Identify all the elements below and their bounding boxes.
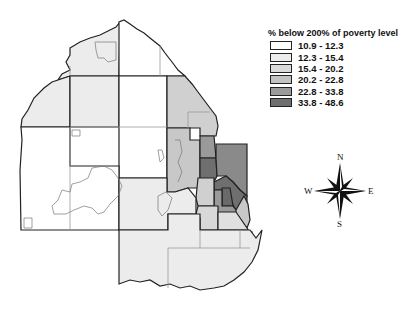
region-west-mid [21, 76, 70, 127]
region-west-lower [20, 127, 119, 230]
region-east-strip [167, 128, 200, 192]
legend-label: 33.8 - 48.6 [298, 97, 343, 108]
compass-north-label: N [337, 152, 344, 162]
legend-label: 15.4 - 20.2 [298, 63, 343, 74]
legend-swatch [270, 41, 292, 50]
region-north-center [119, 20, 185, 76]
legend-item: 20.2 - 22.8 [268, 74, 398, 85]
compass-south-label: S [337, 219, 342, 229]
region-south-city-a [196, 178, 214, 206]
choropleth-map [0, 0, 280, 309]
legend-item: 10.9 - 12.3 [268, 40, 398, 51]
legend: % below 200% of poverty level 10.9 - 12.… [268, 28, 398, 108]
legend-label: 10.9 - 12.3 [298, 40, 343, 51]
legend-title: % below 200% of poverty level [268, 28, 398, 38]
legend-label: 12.3 - 15.4 [298, 52, 343, 63]
region-northwest [58, 22, 120, 80]
region-city-north [200, 136, 216, 158]
legend-swatch [270, 64, 292, 73]
legend-swatch [270, 75, 292, 84]
legend-item: 33.8 - 48.6 [268, 97, 398, 108]
compass-east-label: E [368, 186, 374, 196]
legend-swatch [270, 98, 292, 107]
compass-rose: N S W E [304, 152, 376, 230]
compass-star-icon [312, 162, 368, 220]
legend-label: 22.8 - 33.8 [298, 86, 343, 97]
legend-item: 22.8 - 33.8 [268, 86, 398, 97]
region-center-north [70, 76, 119, 127]
region-northeast [167, 76, 218, 136]
legend-label: 20.2 - 22.8 [298, 74, 343, 85]
legend-swatch [270, 87, 292, 96]
legend-swatch [270, 53, 292, 62]
legend-item: 12.3 - 15.4 [268, 51, 398, 62]
legend-item: 15.4 - 20.2 [268, 63, 398, 74]
